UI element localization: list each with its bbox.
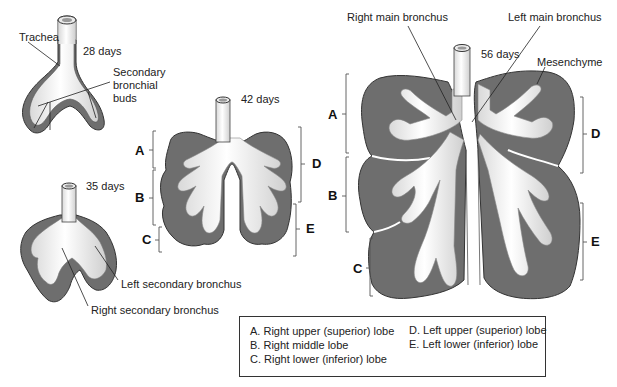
lobe-letter-a-56: A [328,108,337,122]
lobe-letter-e-42: E [306,222,315,236]
lobe-legend: A. Right upper (superior) lobe B. Right … [239,316,546,377]
legend-key: A. [250,325,260,337]
stage-label-35-days: 35 days [86,180,125,193]
secondary-buds-label-1: Secondary [113,66,166,79]
lobe-letter-e-56: E [591,235,600,249]
legend-item-e: E. Left lower (inferior) lobe [409,338,538,351]
right-secondary-bronchus-label: Right secondary bronchus [91,304,219,317]
legend-key: C. [250,353,261,365]
legend-key: E. [409,338,419,350]
stage-label-42-days: 42 days [241,93,280,106]
trachea-label: Trachea [19,31,59,44]
legend-item-c: C. Right lower (inferior) lobe [250,353,387,366]
legend-text: Left lower (inferior) lobe [422,338,538,350]
legend-key: B. [250,339,260,351]
secondary-buds-label-2: bronchial [113,79,158,92]
legend-item-b: B. Right middle lobe [250,339,348,352]
legend-text: Right lower (inferior) lobe [264,353,387,365]
lobe-letter-d-42: D [312,157,321,171]
legend-text: Left upper (superior) lobe [423,324,547,336]
stage-label-28-days: 28 days [83,45,122,58]
mesenchyme-label: Mesenchyme [537,56,602,69]
left-main-bronchus-label: Left main bronchus [508,11,602,24]
stage-label-56-days: 56 days [481,48,520,61]
legend-text: Right upper (superior) lobe [263,325,394,337]
right-main-bronchus-label: Right main bronchus [347,11,448,24]
lobe-letter-a-42: A [135,144,144,158]
left-secondary-bronchus-label: Left secondary bronchus [121,278,241,291]
legend-text: Right middle lobe [263,339,348,351]
lung-42-days [149,97,305,256]
lobe-letter-b-56: B [328,189,337,203]
secondary-buds-label-3: buds [113,92,137,105]
lung-35-days [21,183,118,306]
lobe-letter-d-56: D [591,127,600,141]
lobe-letter-c-42: C [142,233,151,247]
legend-key: D. [409,324,420,336]
legend-item-d: D. Left upper (superior) lobe [409,324,547,337]
legend-item-a: A. Right upper (superior) lobe [250,325,394,338]
lobe-letter-b-42: B [135,191,144,205]
lobe-letter-c-56: C [353,262,362,276]
